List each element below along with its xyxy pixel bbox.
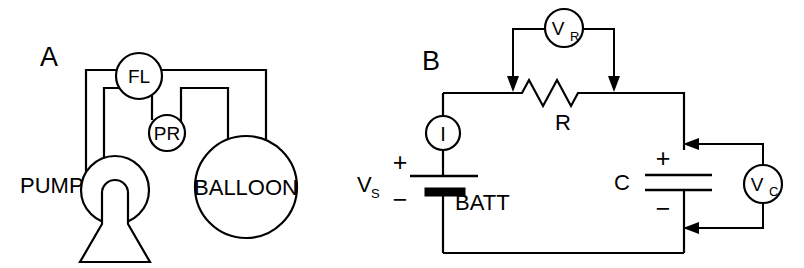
vc-upper-arrow-icon xyxy=(683,138,699,150)
resistor-icon xyxy=(513,80,614,106)
capacitor-label: C xyxy=(614,170,630,195)
pump-label: PUMP xyxy=(20,173,84,198)
ammeter-label: I xyxy=(440,123,446,145)
figure-container: A FL PR PUMP BALLOON xyxy=(0,0,804,268)
vr-left-lead xyxy=(513,29,546,82)
vr-right-lead xyxy=(583,29,614,82)
capacitor-voltmeter-sublabel: C xyxy=(769,184,778,199)
flow-meter-label: FL xyxy=(128,66,150,87)
panel-b-letter: B xyxy=(422,46,440,76)
pressure-meter-label: PR xyxy=(154,123,180,144)
battery-label: BATT xyxy=(455,190,510,215)
capacitor-minus-sign: − xyxy=(656,194,671,222)
vr-left-arrow-icon xyxy=(507,76,519,92)
balloon-label: BALLOON xyxy=(194,175,298,200)
pr-to-balloon-wire xyxy=(181,88,228,144)
panel-a-letter: A xyxy=(40,42,58,72)
battery-minus-sign: − xyxy=(393,185,408,213)
top-right-wire xyxy=(614,93,684,150)
schematic-figure: A FL PR PUMP BALLOON xyxy=(0,0,804,268)
capacitor-plus-sign: + xyxy=(656,144,671,172)
panel-b-group: B R V R I + xyxy=(357,9,782,253)
battery-plus-sign: + xyxy=(393,148,408,176)
source-voltage-sublabel: S xyxy=(371,186,380,201)
vc-upper-lead xyxy=(693,144,763,165)
vc-lower-arrow-icon xyxy=(683,222,699,234)
panel-a-group: A FL PR PUMP BALLOON xyxy=(20,42,298,262)
resistor-label: R xyxy=(555,110,571,135)
vc-lower-lead xyxy=(693,203,763,228)
resistor-voltmeter-label: V xyxy=(552,18,565,39)
resistor-voltmeter-sublabel: R xyxy=(570,29,579,44)
capacitor-voltmeter-label: V xyxy=(751,174,764,195)
source-voltage-label: V xyxy=(357,172,372,197)
vr-right-arrow-icon xyxy=(608,76,620,92)
